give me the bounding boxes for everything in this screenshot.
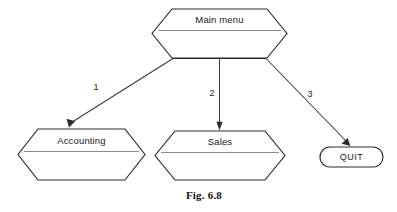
- edge-1-line: [69, 59, 173, 125]
- edge-1-group: 1: [67, 59, 174, 128]
- edge-1-arrowhead: [67, 119, 76, 128]
- sales-label: Sales: [208, 136, 233, 147]
- figure-caption: Fig. 6.8: [186, 189, 222, 201]
- main-menu-label: Main menu: [195, 14, 243, 25]
- edge-3-line: [266, 59, 348, 144]
- quit-label: QUIT: [340, 152, 364, 162]
- node-accounting[interactable]: Accounting: [18, 129, 145, 180]
- node-main-menu[interactable]: Main menu: [152, 9, 287, 58]
- node-quit[interactable]: QUIT: [320, 147, 383, 167]
- edge-3-label: 3: [307, 89, 312, 99]
- edge-3-arrowhead: [342, 138, 351, 146]
- edge-3-group: 3: [266, 59, 351, 147]
- edge-1-label: 1: [93, 82, 98, 92]
- edge-2-arrowhead: [216, 122, 222, 131]
- menu-structure-diagram: 1 2 3 Main menu Accounting: [0, 0, 397, 212]
- edge-2-group: 2: [209, 59, 222, 131]
- figure-container: 1 2 3 Main menu Accounting: [0, 0, 397, 212]
- node-sales[interactable]: Sales: [155, 131, 285, 180]
- edge-2-label: 2: [209, 88, 214, 98]
- accounting-label: Accounting: [57, 135, 106, 146]
